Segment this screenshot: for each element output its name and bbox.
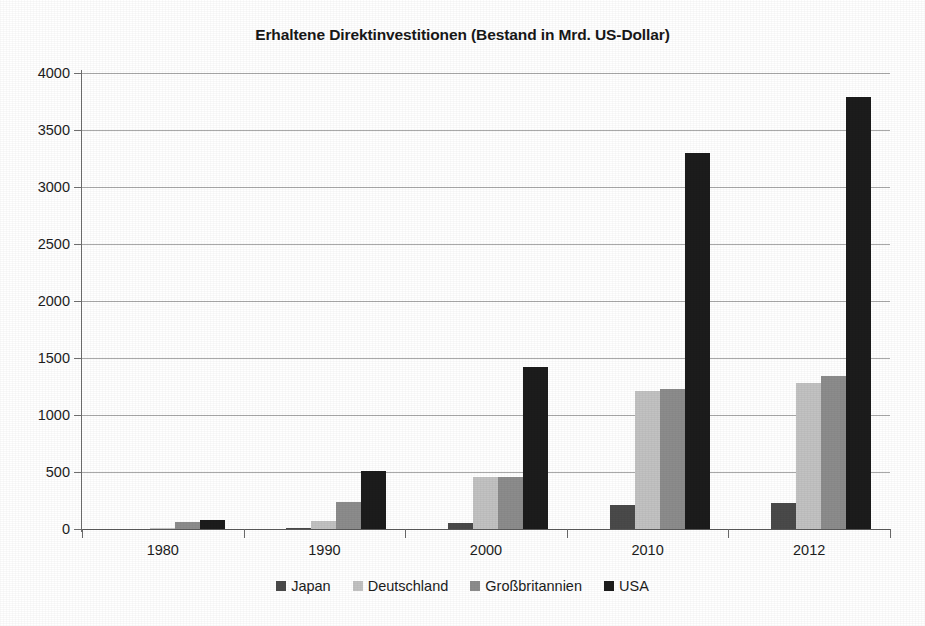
- y-axis-tick-label: 2000: [12, 293, 70, 309]
- y-axis-tick-label: 3500: [12, 122, 70, 138]
- legend-item[interactable]: Japan: [276, 578, 331, 594]
- bar-japan-2012: [771, 503, 796, 529]
- x-axis-tick-mark: [82, 529, 83, 538]
- bar-usa-1980: [200, 520, 225, 529]
- bar-chart: Erhaltene Direktinvestitionen (Bestand i…: [0, 0, 925, 626]
- bar-usa-2012: [846, 97, 871, 529]
- y-axis-tick-label: 1500: [12, 350, 70, 366]
- chart-legend: JapanDeutschlandGroßbritannienUSA: [0, 578, 925, 594]
- bar-group: [610, 73, 710, 529]
- x-axis-tick-mark: [244, 529, 245, 538]
- legend-swatch-icon: [604, 581, 614, 591]
- bar-usa-2010: [685, 153, 710, 529]
- x-axis-tick-label: 1980: [118, 542, 208, 558]
- y-axis-tick-label: 2500: [12, 236, 70, 252]
- legend-label: USA: [619, 578, 649, 594]
- chart-title: Erhaltene Direktinvestitionen (Bestand i…: [0, 26, 925, 44]
- bar-deutschland-2000: [473, 477, 498, 529]
- legend-item[interactable]: USA: [604, 578, 649, 594]
- x-axis-tick-label: 2010: [603, 542, 693, 558]
- legend-swatch-icon: [276, 581, 286, 591]
- bar-deutschland-2012: [796, 383, 821, 529]
- bar-gro-britannien-2000: [498, 477, 523, 529]
- x-axis-tick-label: 2012: [764, 542, 854, 558]
- bar-deutschland-2010: [635, 391, 660, 529]
- bar-gro-britannien-2010: [660, 389, 685, 529]
- legend-label: Großbritannien: [485, 578, 582, 594]
- y-axis-tick-label: 3000: [12, 179, 70, 195]
- bar-gro-britannien-1990: [336, 502, 361, 529]
- bar-gro-britannien-1980: [175, 522, 200, 529]
- y-axis-tick-label: 0: [12, 521, 70, 537]
- x-axis-tick-mark: [728, 529, 729, 538]
- x-axis-tick-label: 2000: [441, 542, 531, 558]
- bar-gro-britannien-2012: [821, 376, 846, 529]
- bar-group: [448, 73, 548, 529]
- bar-japan-2010: [610, 505, 635, 530]
- bar-usa-2000: [523, 367, 548, 529]
- bar-group: [125, 73, 225, 529]
- y-axis-tick-label: 1000: [12, 407, 70, 423]
- legend-swatch-icon: [470, 581, 480, 591]
- x-axis-tick-mark: [890, 529, 891, 538]
- x-axis-tick-mark: [405, 529, 406, 538]
- y-axis-tick-labels: 40003500300025002000150010005000: [4, 73, 70, 529]
- legend-item[interactable]: Deutschland: [353, 578, 449, 594]
- x-axis-tick-mark: [567, 529, 568, 538]
- bar-deutschland-1990: [311, 521, 336, 529]
- legend-label: Japan: [291, 578, 331, 594]
- bar-group: [771, 73, 871, 529]
- y-axis-tick-label: 4000: [12, 65, 70, 81]
- legend-label: Deutschland: [368, 578, 449, 594]
- plot-area: [82, 73, 890, 529]
- x-axis-tick-label: 1990: [279, 542, 369, 558]
- bar-group: [286, 73, 386, 529]
- legend-swatch-icon: [353, 581, 363, 591]
- legend-item[interactable]: Großbritannien: [470, 578, 582, 594]
- bar-usa-1990: [361, 471, 386, 529]
- x-axis-line: [82, 529, 891, 530]
- y-axis-tick-label: 500: [12, 464, 70, 480]
